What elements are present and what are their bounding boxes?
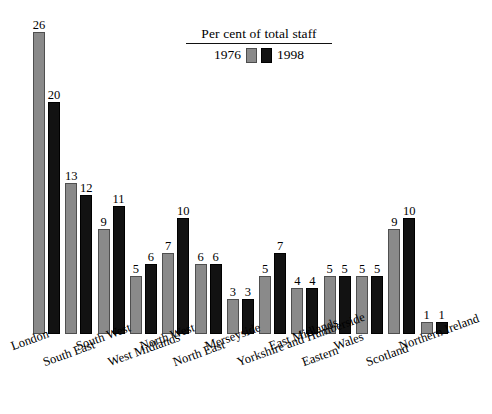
bar-1998: 10 [177,218,189,334]
bar-1976: 9 [388,229,400,334]
bar-1998: 6 [145,264,157,334]
bar-value-label: 12 [80,182,93,195]
bar-group: 911 [98,0,125,334]
bar-value-label: 5 [359,263,365,276]
bar-1998: 12 [80,195,92,334]
bar-value-label: 5 [133,263,139,276]
bar-group: 910 [388,0,415,334]
bar-value-label: 4 [309,275,315,288]
bar-1976: 9 [98,229,110,334]
bar-1976: 13 [65,183,77,334]
bar-group: 2620 [33,0,60,334]
bar-value-label: 4 [294,275,300,288]
bar-1998: 20 [48,102,60,334]
bar-1998: 11 [113,206,125,334]
bar-value-label: 5 [374,263,380,276]
bar-value-label: 6 [197,251,203,264]
bar-1998: 6 [210,264,222,334]
bar-value-label: 26 [33,19,46,32]
bar-group: 66 [195,0,222,334]
bar-group: 55 [356,0,383,334]
bar-value-label: 6 [212,251,218,264]
bar-value-label: 5 [342,263,348,276]
bar-group: 44 [291,0,318,334]
bar-group: 710 [162,0,189,334]
x-axis-labels: LondonSouth EastSouth WestWest MidlandsN… [0,334,492,414]
bar-1976: 6 [195,264,207,334]
bar-group: 55 [324,0,351,334]
bar-value-label: 11 [113,193,125,206]
bar-value-label: 10 [403,205,416,218]
bar-group: 1312 [65,0,92,334]
bar-value-label: 5 [327,263,333,276]
bar-group: 33 [227,0,254,334]
bar-value-label: 1 [423,309,429,322]
bar-1976: 5 [259,276,271,334]
bar-value-label: 5 [262,263,268,276]
bar-group: 56 [130,0,157,334]
bar-chart: Per cent of total staff 1976 1998 262013… [0,0,492,414]
plot-area: 262013129115671066335744555591011 [0,0,492,334]
bar-value-label: 3 [245,286,251,299]
bar-group: 11 [421,0,448,334]
bar-group: 57 [259,0,286,334]
bar-value-label: 7 [165,240,171,253]
bar-value-label: 9 [391,216,397,229]
bar-value-label: 7 [277,240,283,253]
bar-value-label: 20 [48,89,61,102]
bar-1976: 5 [130,276,142,334]
bar-1998: 5 [371,276,383,334]
bar-value-label: 3 [230,286,236,299]
bar-1976: 26 [33,32,45,334]
bar-value-label: 6 [148,251,154,264]
bar-value-label: 9 [100,216,106,229]
bar-value-label: 1 [438,309,444,322]
bar-1998: 7 [274,253,286,334]
bar-value-label: 13 [65,170,78,183]
bar-value-label: 10 [177,205,190,218]
bar-1976: 7 [162,253,174,334]
bar-1998: 10 [403,218,415,334]
